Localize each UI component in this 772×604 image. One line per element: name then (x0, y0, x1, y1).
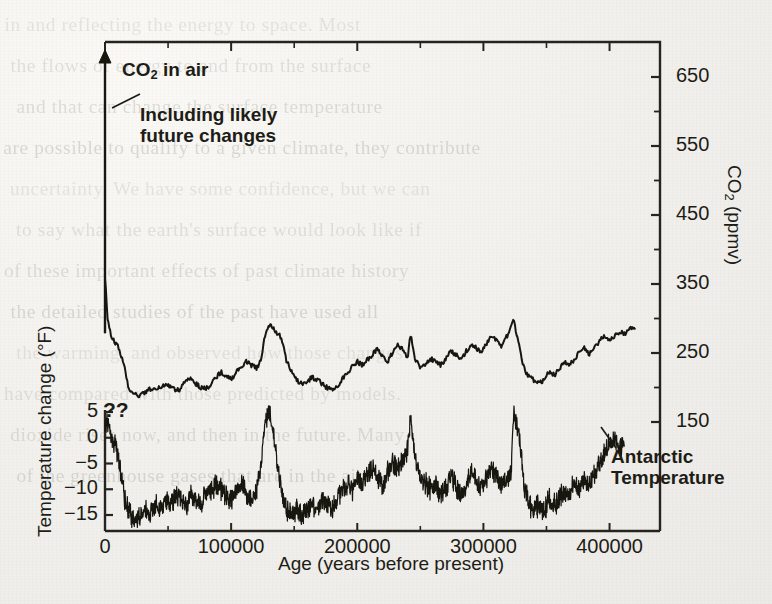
chart-figure: 0100000200000300000400000 15025035045055… (0, 0, 772, 604)
antarctic-label-line1: Antarctic (611, 446, 725, 467)
chart-svg (0, 0, 772, 604)
future-changes-line2: future changes (140, 125, 277, 146)
tick-label: −15 (64, 502, 98, 524)
co2-annotation-main: CO (122, 59, 151, 80)
temperature-axis-title: Temperature change (°F) (34, 326, 55, 537)
co2-axis-title-units: (ppmv) (724, 201, 745, 265)
tick-label: 0 (87, 425, 98, 447)
future-changes-line1: Including likely (140, 104, 277, 125)
tick-label: 5 (87, 399, 98, 421)
uncertainty-annotation: ?? (103, 398, 129, 422)
co2-axis-title-sub: 2 (722, 194, 737, 201)
co2-annotation-sub: 2 (151, 67, 158, 82)
co2-in-air-annotation: CO2 in air (122, 59, 208, 82)
tick-label: 550 (676, 133, 709, 155)
tick-label: 100000 (198, 535, 265, 557)
annotation-leader-lines (112, 94, 616, 448)
antarctic-temperature-annotation: Antarctic Temperature (611, 446, 725, 489)
tick-label: 400000 (576, 535, 643, 557)
tick-label: 150 (676, 409, 709, 431)
antarctic-label-line2: Temperature (611, 467, 725, 488)
tick-label: 450 (676, 202, 709, 224)
tick-label: −5 (75, 451, 98, 473)
x-axis-title: Age (years before present) (278, 553, 504, 574)
tick-label: 350 (676, 271, 709, 293)
co2-axis-title-main: CO (724, 165, 745, 194)
tick-label: 650 (676, 64, 709, 86)
tick-label: 0 (99, 535, 110, 557)
future-changes-annotation: Including likely future changes (140, 104, 277, 147)
co2-axis-title: CO2 (ppmv) (722, 165, 745, 265)
co2-annotation-tail: in air (158, 59, 209, 80)
tick-label: −10 (64, 476, 98, 498)
tick-label: 250 (676, 340, 709, 362)
